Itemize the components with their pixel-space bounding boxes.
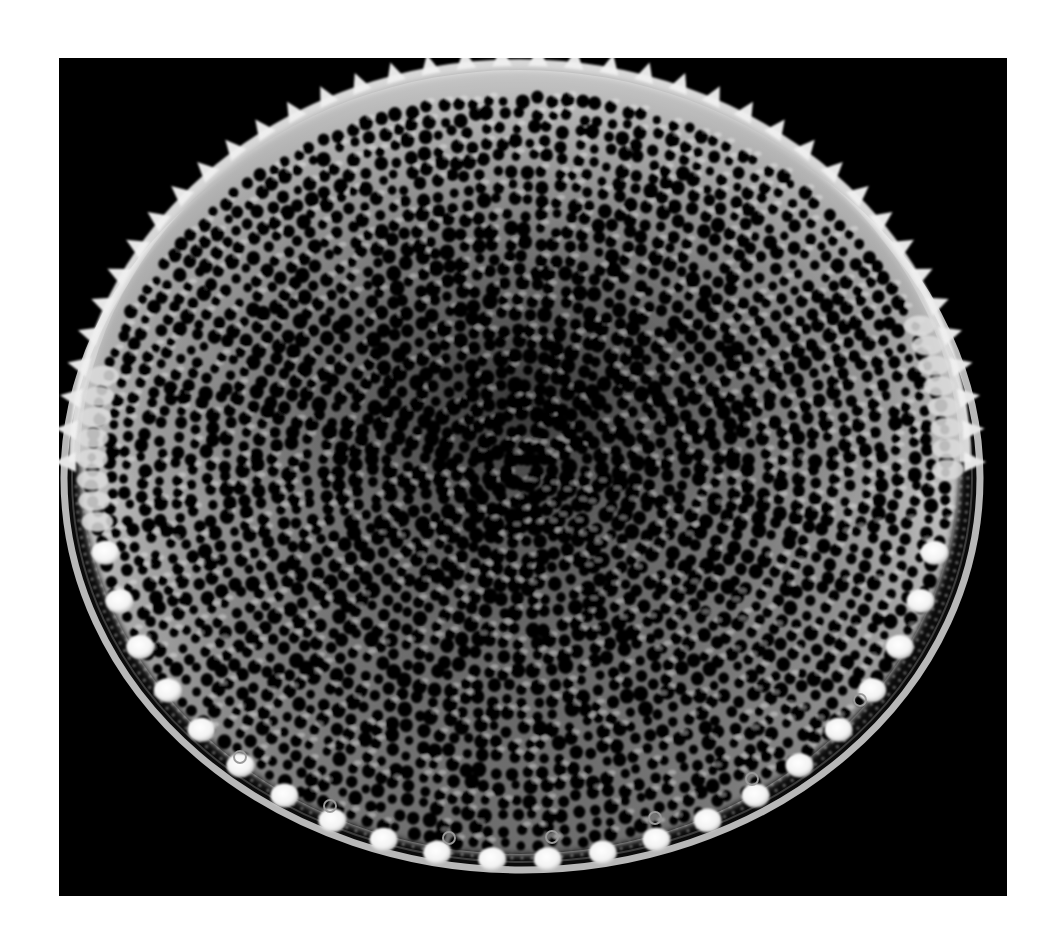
diatom-micrograph (0, 0, 1062, 938)
